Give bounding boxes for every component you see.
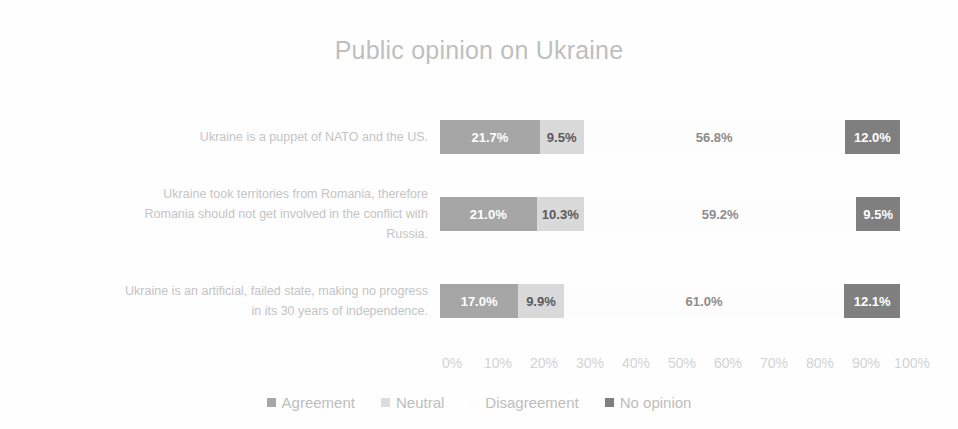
chart-title: Public opinion on Ukraine [0,36,958,65]
axis-tick-label: 40% [622,355,650,371]
legend-item[interactable]: No opinion [605,394,692,411]
segment-value-label: 17.0% [461,294,498,309]
axis-tick-label: 30% [576,355,604,371]
axis-tick-label: 10% [484,355,512,371]
segment-value-label: 10.3% [542,207,579,222]
axis-tick-label: 80% [806,355,834,371]
legend-label: Neutral [396,394,444,411]
legend-item[interactable]: Neutral [381,394,444,411]
segment-agreement[interactable]: 21.0% [440,197,537,231]
bar-track-2: 17.0% 9.9% 61.0% 12.1% [440,284,900,318]
legend-swatch-icon [470,398,479,407]
bar-row: Ukraine is an artificial, failed state, … [0,266,958,336]
segment-value-label: 56.8% [696,130,733,145]
segment-neutral[interactable]: 9.5% [540,120,584,154]
legend-item[interactable]: Agreement [267,394,355,411]
bar-track-1: 21.0% 10.3% 59.2% 9.5% [440,197,900,231]
segment-value-label: 9.5% [547,130,577,145]
category-label-1: Ukraine took territories from Romania, t… [0,184,440,244]
segment-disagreement[interactable]: 61.0% [564,284,845,318]
category-label-line: in its 30 years of independence. [0,301,428,321]
legend-swatch-icon [381,398,390,407]
legend-swatch-icon [605,398,614,407]
plot-area: Ukraine is a puppet of NATO and the US. … [0,100,958,350]
segment-no-opinion[interactable]: 12.0% [845,120,900,154]
category-label-line: Russia. [0,224,428,244]
bar-row: Ukraine took territories from Romania, t… [0,179,958,249]
category-label-2: Ukraine is an artificial, failed state, … [0,281,440,321]
category-label-0: Ukraine is a puppet of NATO and the US. [0,127,440,147]
segment-value-label: 59.2% [702,207,739,222]
axis-tick-label: 20% [530,355,558,371]
bar-row: Ukraine is a puppet of NATO and the US. … [0,102,958,172]
axis-tick-label: 50% [668,355,696,371]
legend-label: Agreement [282,394,355,411]
legend-item[interactable]: Disagreement [470,394,578,411]
segment-disagreement[interactable]: 56.8% [584,120,845,154]
segment-value-label: 9.9% [526,294,556,309]
chart-legend: AgreementNeutralDisagreementNo opinion [0,394,958,411]
legend-label: Disagreement [485,394,578,411]
axis-tick-label: 70% [760,355,788,371]
segment-value-label: 21.7% [471,130,508,145]
axis-tick-label: 90% [852,355,880,371]
segment-disagreement[interactable]: 59.2% [584,197,856,231]
legend-label: No opinion [620,394,692,411]
segment-value-label: 12.1% [854,294,891,309]
category-label-line: Ukraine took territories from Romania, t… [0,184,428,204]
category-label-line: Ukraine is an artificial, failed state, … [0,281,428,301]
category-label-line: Ukraine is a puppet of NATO and the US. [0,127,428,147]
category-label-line: Romania should not get involved in the c… [0,204,428,224]
segment-value-label: 61.0% [686,294,723,309]
segment-agreement[interactable]: 21.7% [440,120,540,154]
chart-container: Public opinion on Ukraine Ukraine is a p… [0,0,958,429]
axis-tick-label: 60% [714,355,742,371]
segment-neutral[interactable]: 9.9% [518,284,564,318]
x-axis: 0%10%20%30%40%50%60%70%80%90%100% [440,355,920,375]
segment-value-label: 21.0% [470,207,507,222]
segment-value-label: 12.0% [854,130,891,145]
segment-no-opinion[interactable]: 12.1% [844,284,900,318]
segment-agreement[interactable]: 17.0% [440,284,518,318]
segment-neutral[interactable]: 10.3% [537,197,584,231]
axis-tick-label: 0% [442,355,462,371]
legend-swatch-icon [267,398,276,407]
bar-track-0: 21.7% 9.5% 56.8% 12.0% [440,120,900,154]
segment-value-label: 9.5% [863,207,893,222]
segment-no-opinion[interactable]: 9.5% [856,197,900,231]
axis-tick-label: 100% [894,355,930,371]
